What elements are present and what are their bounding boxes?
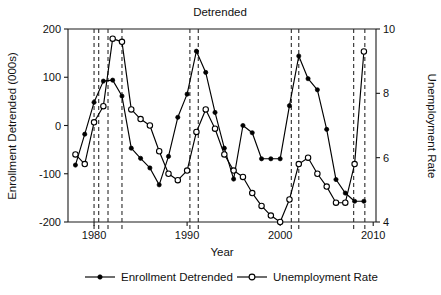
left-tick-label-4: 200 xyxy=(43,23,61,35)
series-1-point-21 xyxy=(269,157,273,161)
series-1-point-11 xyxy=(176,115,180,119)
series-1-point-7 xyxy=(138,156,142,160)
right-axis-label: Unemployment Rate xyxy=(426,74,438,179)
legend-label-1: Unemployment Rate xyxy=(273,271,378,283)
right-tick-label-2: 8 xyxy=(383,87,389,99)
data-series-group xyxy=(73,36,367,225)
legend-marker-0 xyxy=(98,275,102,279)
left-tick-label-3: 100 xyxy=(43,71,61,83)
series-2-point-0 xyxy=(73,152,78,157)
series-2-point-9 xyxy=(156,149,161,154)
series-1-point-27 xyxy=(325,127,329,131)
series-1-point-20 xyxy=(259,157,263,161)
series-1-point-28 xyxy=(334,177,338,181)
series-1-point-25 xyxy=(306,77,310,81)
series-1-point-18 xyxy=(241,123,245,127)
series-2-point-17 xyxy=(231,168,236,173)
series-2-point-31 xyxy=(361,49,366,54)
right-tick-label-0: 4 xyxy=(383,216,389,228)
left-tick-label-1: -100 xyxy=(39,168,61,180)
series-2-point-25 xyxy=(305,155,310,160)
series-2-point-28 xyxy=(333,200,338,205)
series-2-point-27 xyxy=(324,184,329,189)
chart-title: Detrended xyxy=(193,6,247,18)
series-1-point-4 xyxy=(111,78,115,82)
legend-label-0: Enrollment Detrended xyxy=(121,271,233,283)
series-2-point-16 xyxy=(222,152,227,157)
x-tick-label-2: 2000 xyxy=(268,229,292,241)
series-2-point-29 xyxy=(343,200,348,205)
series-1-point-10 xyxy=(166,154,170,158)
series-2-point-4 xyxy=(110,36,115,41)
right-axis-ticks: 46810 xyxy=(376,23,395,228)
left-tick-label-0: -200 xyxy=(39,216,61,228)
series-2-point-5 xyxy=(119,39,124,44)
series-2-point-3 xyxy=(101,104,106,109)
series-1-point-26 xyxy=(315,88,319,92)
series-2-point-2 xyxy=(91,120,96,125)
series-1-point-31 xyxy=(362,199,366,203)
series-2-point-18 xyxy=(240,174,245,179)
series-1-point-12 xyxy=(185,92,189,96)
series-2-point-8 xyxy=(147,123,152,128)
series-2-point-26 xyxy=(315,171,320,176)
series-2-point-20 xyxy=(259,203,264,208)
series-2-point-6 xyxy=(129,107,134,112)
right-tick-label-1: 6 xyxy=(383,152,389,164)
series-2-point-14 xyxy=(203,107,208,112)
series-1-point-6 xyxy=(129,146,133,150)
series-1-point-8 xyxy=(148,166,152,170)
series-1-point-23 xyxy=(287,104,291,108)
series-2-point-1 xyxy=(82,161,87,166)
series-1-point-5 xyxy=(120,94,124,98)
series-2-point-19 xyxy=(250,190,255,195)
series-2-point-24 xyxy=(296,161,301,166)
series-1-point-30 xyxy=(353,199,357,203)
series-1-point-1 xyxy=(83,132,87,136)
x-axis-label: Year xyxy=(210,246,233,258)
left-axis-ticks: -200-1000100200 xyxy=(39,23,68,228)
legend-marker-1 xyxy=(249,274,255,280)
series-2-point-13 xyxy=(194,129,199,134)
right-tick-label-3: 10 xyxy=(383,23,395,35)
x-tick-label-1: 1990 xyxy=(175,229,199,241)
series-1-point-22 xyxy=(278,157,282,161)
x-tick-label-3: 2010 xyxy=(361,229,385,241)
series-1-point-2 xyxy=(92,100,96,104)
series-2-point-15 xyxy=(212,126,217,131)
chart-figure: Detrended -200-1000100200 46810 19801990… xyxy=(0,0,441,295)
detrended-enrollment-unemployment-chart: Detrended -200-1000100200 46810 19801990… xyxy=(0,0,441,295)
x-tick-label-0: 1980 xyxy=(82,229,106,241)
series-2-point-23 xyxy=(287,197,292,202)
series-2-point-22 xyxy=(277,219,282,224)
series-1-point-17 xyxy=(232,177,236,181)
series-1-point-15 xyxy=(213,110,217,114)
series-1-point-19 xyxy=(250,131,254,135)
series-2-point-30 xyxy=(352,161,357,166)
series-1-point-3 xyxy=(101,79,105,83)
series-2-point-12 xyxy=(184,168,189,173)
series-1-point-13 xyxy=(194,49,198,53)
chart-legend: Enrollment DetrendedUnemployment Rate xyxy=(85,271,378,283)
series-2-point-10 xyxy=(166,171,171,176)
series-1-point-9 xyxy=(157,183,161,187)
bottom-axis-ticks: 1980199020002010 xyxy=(82,222,386,241)
series-1-point-0 xyxy=(73,163,77,167)
series-1-point-24 xyxy=(297,54,301,58)
series-2-point-7 xyxy=(138,116,143,121)
left-tick-label-2: 0 xyxy=(55,120,61,132)
left-axis-label: Enrollment Detrended (000s) xyxy=(6,52,18,200)
series-2-point-11 xyxy=(175,177,180,182)
series-2-point-21 xyxy=(268,213,273,218)
series-1-point-14 xyxy=(204,70,208,74)
recession-marker-lines xyxy=(94,29,365,230)
